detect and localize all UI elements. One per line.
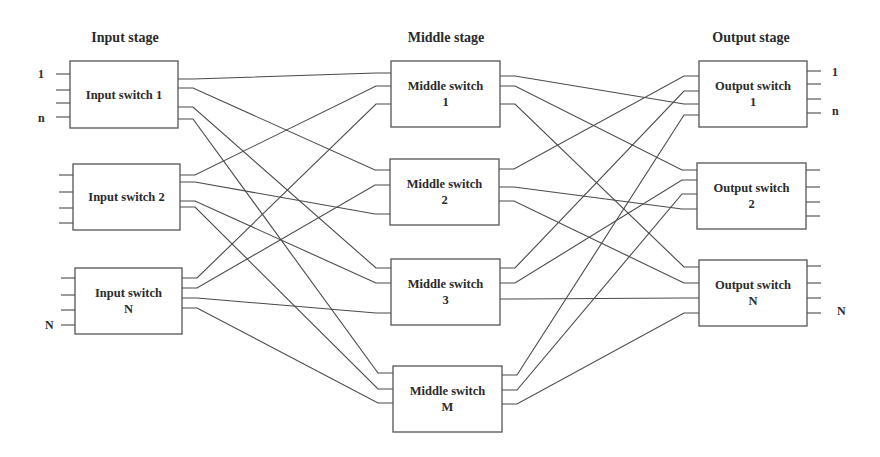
switch-out2: Output switch2 [697, 163, 806, 229]
link-mid1-out2 [500, 86, 697, 170]
switch-outN: Output switchN [699, 260, 807, 326]
switch-out1: Output switch1 [699, 61, 807, 127]
switch-boxes: Input switch 1Input switch 2Input switch… [70, 61, 807, 432]
stage-title-output: Output stage [712, 30, 789, 45]
link-inN-mid3 [182, 298, 391, 313]
port-label-input-first: 1 [38, 67, 44, 81]
switch-mid2: Middle switch2 [390, 159, 499, 225]
link-midM-out1 [502, 115, 699, 375]
link-in2-mid3 [180, 201, 391, 283]
switch-label: M [442, 400, 454, 414]
switch-box [391, 61, 500, 127]
clos-network-diagram: Input switch 1Input switch 2Input switch… [0, 0, 880, 457]
link-in1-mid2 [178, 88, 390, 170]
port-label-output-first: 1 [832, 65, 838, 79]
switch-box [699, 260, 807, 326]
switch-box [393, 366, 502, 432]
link-mid3-out2 [500, 180, 697, 283]
switch-box [391, 259, 500, 325]
switch-box [697, 163, 806, 229]
port-label-input-last: n [38, 111, 45, 125]
port-label-output-last: n [832, 104, 839, 118]
switch-label: Middle switch [410, 384, 485, 398]
switch-mid3: Middle switch3 [391, 259, 500, 325]
switch-label: Output switch [713, 181, 789, 195]
switch-label: Output switch [715, 278, 791, 292]
switch-box [390, 159, 499, 225]
link-mid3-outN [500, 298, 699, 299]
switch-label: Input switch 1 [86, 88, 162, 102]
switch-label: 3 [442, 293, 448, 307]
switch-label: Middle switch [408, 79, 483, 93]
link-inN-midM [182, 308, 393, 403]
link-mid3-out1 [500, 91, 699, 268]
switch-inN: Input switchN [75, 268, 182, 334]
switch-label: Input switch 2 [88, 190, 164, 204]
link-in1-midM [178, 119, 393, 373]
port-label-output-total: N [837, 304, 846, 318]
link-mid1-out1 [500, 76, 699, 104]
link-inN-mid2 [182, 185, 390, 288]
switch-in2: Input switch 2 [73, 164, 180, 230]
switch-label: Output switch [715, 79, 791, 93]
port-label-input-total: N [45, 318, 54, 332]
switch-label: Middle switch [407, 177, 482, 191]
link-mid2-outN [499, 201, 699, 283]
switch-midM: Middle switchM [393, 366, 502, 432]
link-in1-mid1 [178, 73, 391, 79]
switch-label: N [748, 294, 757, 308]
link-in2-midM [180, 207, 393, 389]
switch-label: Middle switch [408, 277, 483, 291]
stage-title-input: Input stage [91, 30, 158, 45]
switch-label: 2 [748, 197, 754, 211]
link-midM-outN [502, 313, 699, 404]
stage-titles: Input stage Middle stage Output stage [91, 30, 789, 45]
switch-mid1: Middle switch1 [391, 61, 500, 127]
switch-in1: Input switch 1 [70, 61, 178, 128]
switch-label: 1 [750, 95, 756, 109]
switch-box [699, 61, 807, 127]
switch-box [75, 268, 182, 334]
link-mid2-out2 [499, 187, 697, 209]
switch-label: N [124, 302, 133, 316]
link-midM-out2 [502, 194, 697, 390]
stage-title-middle: Middle stage [408, 30, 485, 45]
link-in2-mid2 [180, 182, 390, 214]
switch-label: Input switch [95, 286, 162, 300]
link-in2-mid1 [180, 86, 391, 175]
switch-label: 1 [442, 95, 448, 109]
switch-label: 2 [441, 193, 447, 207]
